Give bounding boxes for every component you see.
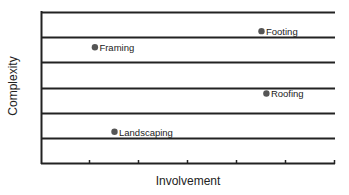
marker-dot-icon (263, 90, 269, 96)
data-point-footing: Footing (258, 26, 297, 37)
y-axis-label: Complexity (6, 46, 22, 126)
point-label: Framing (99, 42, 134, 53)
marker-dot-icon (111, 129, 117, 135)
point-label: Landscaping (119, 127, 173, 138)
x-axis-label: Involvement (138, 174, 238, 188)
marker-dot-icon (258, 28, 264, 34)
data-point-roofing: Roofing (263, 88, 303, 99)
point-label: Footing (266, 26, 298, 37)
point-label: Roofing (271, 88, 304, 99)
data-point-framing: Framing (92, 42, 135, 53)
data-point-landscaping: Landscaping (111, 127, 173, 138)
data-points: FramingFootingRoofingLandscaping (92, 26, 304, 138)
scatter-plot: FramingFootingRoofingLandscaping (0, 0, 349, 195)
marker-dot-icon (92, 44, 98, 50)
